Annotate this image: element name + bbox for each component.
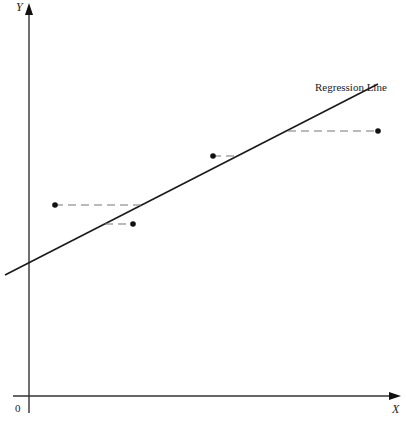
data-point (375, 128, 381, 134)
x-axis-label: X (392, 402, 399, 417)
data-point (52, 202, 58, 208)
regression-line (5, 84, 378, 275)
regression-line-label: Regression Line (315, 81, 387, 93)
data-points (52, 128, 381, 227)
y-axis-arrow-icon (25, 3, 33, 15)
data-point (130, 221, 136, 227)
data-point (210, 153, 216, 159)
y-axis-label: Y (16, 0, 23, 15)
residual-lines (55, 131, 378, 224)
origin-label: 0 (15, 402, 21, 414)
x-axis-arrow-icon (389, 392, 401, 400)
regression-diagram (0, 0, 407, 425)
